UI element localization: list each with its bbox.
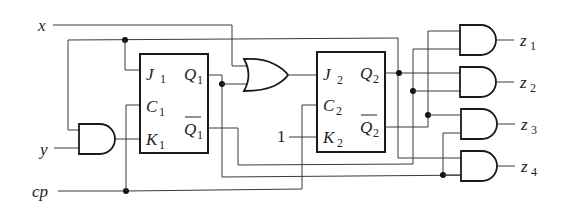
svg-text:4: 4 xyxy=(531,165,537,179)
wire-Q2bar xyxy=(385,31,460,127)
and-gate-z2 xyxy=(460,67,496,97)
pin-Q2bar: Q xyxy=(360,118,372,137)
pin-Q1bar: Q xyxy=(184,120,196,139)
svg-text:2: 2 xyxy=(337,136,343,150)
svg-text:2: 2 xyxy=(336,104,342,118)
input-label-cp: cp xyxy=(32,182,48,201)
output-label-z4: z xyxy=(520,157,528,176)
pin-K1: K xyxy=(145,130,159,149)
input-label-y: y xyxy=(38,140,48,159)
svg-text:3: 3 xyxy=(531,123,537,137)
wire-C1 xyxy=(126,105,140,191)
or-gate xyxy=(244,59,288,91)
pin-C1: C xyxy=(146,97,158,116)
wire-J1 xyxy=(125,40,140,70)
pin-C2: C xyxy=(323,96,335,115)
svg-text:1: 1 xyxy=(197,128,203,142)
logic-circuit-diagram: x y cp J 1 C 1 K 1 Q 1 Q 1 1 J 2 C 2 K 2… xyxy=(0,0,566,208)
wire-feedback xyxy=(68,38,462,158)
svg-text:2: 2 xyxy=(373,126,379,140)
pin-Q1: Q xyxy=(184,65,196,84)
svg-text:1: 1 xyxy=(160,72,166,86)
output-label-z2: z xyxy=(519,73,527,92)
svg-text:2: 2 xyxy=(373,72,379,86)
junction-dot xyxy=(396,70,402,76)
svg-text:1: 1 xyxy=(197,73,203,87)
and-gate-z4 xyxy=(461,151,497,181)
output-label-z3: z xyxy=(520,115,528,134)
svg-text:2: 2 xyxy=(337,73,343,87)
svg-text:1: 1 xyxy=(159,105,165,119)
pin-K2: K xyxy=(322,128,336,147)
and-gate-input xyxy=(79,124,115,154)
wire-Q1-to-z3 xyxy=(443,133,460,175)
pin-Q2: Q xyxy=(360,64,372,83)
output-label-z1: z xyxy=(519,31,527,50)
svg-text:2: 2 xyxy=(530,81,536,95)
constant-one: 1 xyxy=(277,127,286,146)
and-gate-z1 xyxy=(460,25,496,55)
svg-text:1: 1 xyxy=(159,138,165,152)
svg-text:1: 1 xyxy=(530,39,536,53)
input-label-x: x xyxy=(37,16,46,35)
and-gate-z3 xyxy=(461,109,497,139)
